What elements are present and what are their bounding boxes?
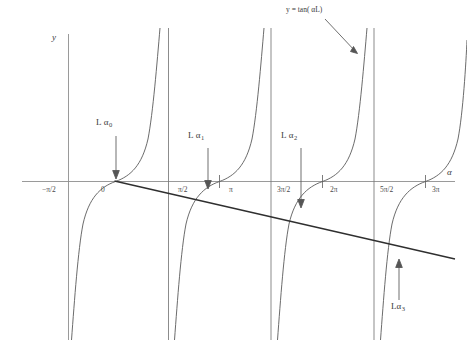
tan-label-arrow <box>325 19 358 54</box>
tan-branch-3 <box>381 40 467 340</box>
plot-canvas <box>0 0 467 351</box>
tan-branch-0 <box>72 28 161 340</box>
root-label-3: Lα3 <box>391 302 405 312</box>
root-label-3-subscript: 3 <box>401 305 405 312</box>
x-axis-label: α <box>447 168 452 177</box>
root-label-0-subscript: 0 <box>108 121 112 128</box>
tick-label-2pi: 2π <box>330 186 338 194</box>
root-label-0: L α0 <box>96 118 112 128</box>
tick-label-5pi-over-2: 5π/2 <box>380 186 393 194</box>
tick-label-pi-over-2: π/2 <box>178 186 188 194</box>
tick-label-3pi-over-2: 3π/2 <box>277 186 290 194</box>
asymptotes-group <box>169 28 375 340</box>
tick-label-3pi: 3π <box>432 186 440 194</box>
tangent-plot-figure: y α −π/2 0 π/2 π 3π/2 2π 5π/2 3π y = tan… <box>0 0 467 351</box>
tick-label-minus-pi-over-2: −π/2 <box>42 186 56 194</box>
annotation-arrows-group <box>113 19 403 300</box>
tick-label-pi: π <box>229 186 233 194</box>
root-label-2: L α2 <box>281 131 297 141</box>
root-0-arrow <box>113 136 120 179</box>
tangent-curve-group <box>72 28 467 340</box>
root-label-2-subscript: 2 <box>293 134 297 141</box>
y-axis-label: y <box>52 33 56 42</box>
root-3-arrow <box>396 259 403 300</box>
root-label-1: L α1 <box>188 131 204 141</box>
root-label-1-subscript: 1 <box>200 134 204 141</box>
tan-function-annotation: y = tan( αL) <box>286 6 322 14</box>
tick-label-zero: 0 <box>101 186 105 194</box>
root-1-arrow <box>205 148 212 189</box>
